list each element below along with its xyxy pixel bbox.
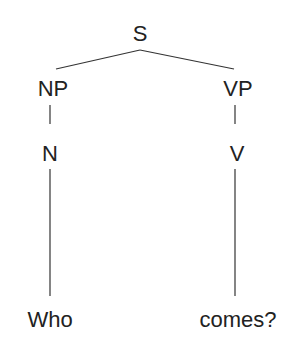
node-vp: VP — [223, 78, 252, 100]
tree-edges — [0, 0, 302, 349]
node-v: V — [230, 143, 245, 165]
node-n: N — [42, 143, 58, 165]
node-s: S — [133, 23, 148, 45]
leaf-who: Who — [27, 309, 72, 331]
edge-s-vp — [140, 50, 234, 69]
leaf-comes: comes? — [199, 309, 276, 331]
node-np: NP — [38, 78, 69, 100]
edge-s-np — [56, 50, 140, 69]
